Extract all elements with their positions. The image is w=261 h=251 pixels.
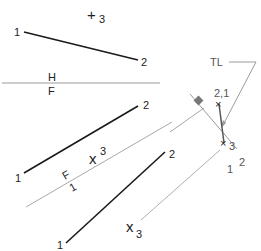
fold-line-f1-1-label: 1 bbox=[67, 180, 78, 193]
front-view-point-marker: x bbox=[89, 150, 97, 167]
front-view-label-1: 1 bbox=[15, 172, 21, 184]
diagram-svg: 1 2 + 3 H F 1 2 x 3 F 1 1 2 x 3 1 2 bbox=[0, 0, 261, 251]
top-view-line-1-2 bbox=[24, 32, 138, 60]
front-view-line-1-2 bbox=[24, 106, 138, 173]
aux2-point-view-label: 2,1 bbox=[214, 87, 229, 99]
top-view-label-2: 2 bbox=[141, 56, 147, 68]
top-view-label-1: 1 bbox=[14, 26, 20, 38]
fold-line-12-2-label: 2 bbox=[239, 156, 245, 168]
front-view-label-3: 3 bbox=[100, 145, 106, 157]
top-view-label-3: 3 bbox=[99, 13, 105, 25]
aux2-point-3-marker: × bbox=[220, 137, 226, 149]
projection-line-aux2 bbox=[170, 108, 204, 132]
projection-line-point-3 bbox=[141, 150, 220, 220]
top-view: 1 2 + 3 bbox=[14, 6, 147, 68]
aux1-label-3: 3 bbox=[136, 228, 142, 240]
tl-annotation: TL bbox=[210, 56, 223, 68]
auxiliary-view-2: TL × 2,1 × 3 bbox=[210, 56, 256, 152]
fold-line-f1: F 1 bbox=[26, 122, 172, 207]
aux2-point-view-marker: × bbox=[215, 98, 221, 110]
aux1-line-1-2 bbox=[66, 152, 165, 243]
fold-line-f-label: F bbox=[48, 85, 55, 97]
fold-line-f1-line bbox=[26, 122, 172, 207]
top-view-point-marker: + bbox=[87, 6, 96, 23]
fold-line-hf: H F bbox=[2, 71, 160, 97]
aux1-point-marker: x bbox=[126, 218, 134, 235]
aux2-label-3: 3 bbox=[229, 140, 235, 152]
fold-line-f1-f-label: F bbox=[60, 168, 72, 182]
aux1-label-2: 2 bbox=[169, 148, 175, 160]
diagram-canvas: 1 2 + 3 H F 1 2 x 3 F 1 1 2 x 3 1 2 bbox=[0, 0, 261, 251]
front-view: 1 2 x 3 bbox=[15, 99, 149, 184]
fold-line-h-label: H bbox=[48, 71, 56, 83]
right-angle-marker bbox=[194, 96, 204, 106]
auxiliary-view-1: 1 2 x 3 bbox=[57, 148, 175, 251]
fold-line-12-1-label: 1 bbox=[227, 163, 233, 175]
aux1-label-1: 1 bbox=[57, 239, 63, 251]
front-view-label-2: 2 bbox=[143, 99, 149, 111]
